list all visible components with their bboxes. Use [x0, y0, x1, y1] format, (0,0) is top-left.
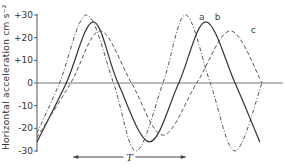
y-tick-label: +30	[14, 10, 33, 20]
arrowhead-left-icon	[73, 155, 78, 159]
y-tick-label: 0	[27, 78, 33, 88]
series-c-label: c	[251, 25, 256, 35]
series-b-label: b	[215, 12, 221, 22]
y-tick-label: -30	[18, 146, 33, 156]
period-label: T	[126, 152, 134, 163]
period-annotation: T	[73, 152, 186, 163]
y-tick-label: +10	[14, 55, 33, 65]
chart: +30+20+100-10-20-30 Horizontal accelerat…	[0, 0, 285, 168]
series-b-line	[37, 22, 260, 142]
y-ticks: +30+20+100-10-20-30	[14, 10, 37, 156]
y-tick-label: -10	[18, 101, 33, 111]
y-tick-label: -20	[18, 123, 33, 133]
y-tick-label: +20	[14, 33, 33, 43]
arrowhead-right-icon	[181, 155, 186, 159]
series-a-label: a	[199, 12, 205, 22]
y-axis-label: Horizontal acceleration cm s⁻²	[1, 4, 11, 150]
